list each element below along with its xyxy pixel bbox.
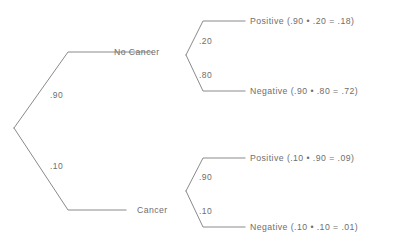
outcome-cancer-negative: Negative (.10 • .10 = .01) [250,222,358,232]
probability-cancer-positive: .90 [199,172,212,182]
branch-cancer-to-positive [186,158,245,191]
probability-tree-diagram: .90 .10 No Cancer Cancer .20 .80 .90 .10… [0,0,396,242]
branch-root-to-cancer [14,128,126,210]
branch-no-cancer-to-positive [186,21,245,55]
probability-no-cancer-negative: .80 [199,70,212,80]
node-label-no-cancer: No Cancer [114,47,160,57]
branch-no-cancer-to-negative [186,55,245,91]
outcome-no-cancer-positive: Positive (.90 • .20 = .18) [250,16,354,26]
branch-root-to-no-cancer [14,52,152,128]
probability-no-cancer-positive: .20 [199,36,212,46]
branch-cancer-to-negative [186,191,245,227]
node-label-cancer: Cancer [137,205,168,215]
probability-cancer-negative: .10 [199,206,212,216]
probability-root-cancer: .10 [50,161,63,171]
probability-root-no-cancer: .90 [50,90,63,100]
tree-branches-svg [0,0,396,242]
outcome-no-cancer-negative: Negative (.90 • .80 = .72) [250,86,358,96]
outcome-cancer-positive: Positive (.10 • .90 = .09) [250,153,354,163]
